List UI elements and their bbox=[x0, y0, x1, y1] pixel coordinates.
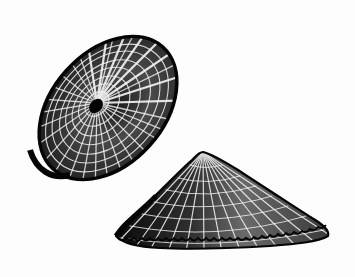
limpet-shell-side-view bbox=[116, 152, 328, 252]
illustration-canvas bbox=[0, 0, 355, 277]
limpet-illustration bbox=[0, 0, 355, 277]
